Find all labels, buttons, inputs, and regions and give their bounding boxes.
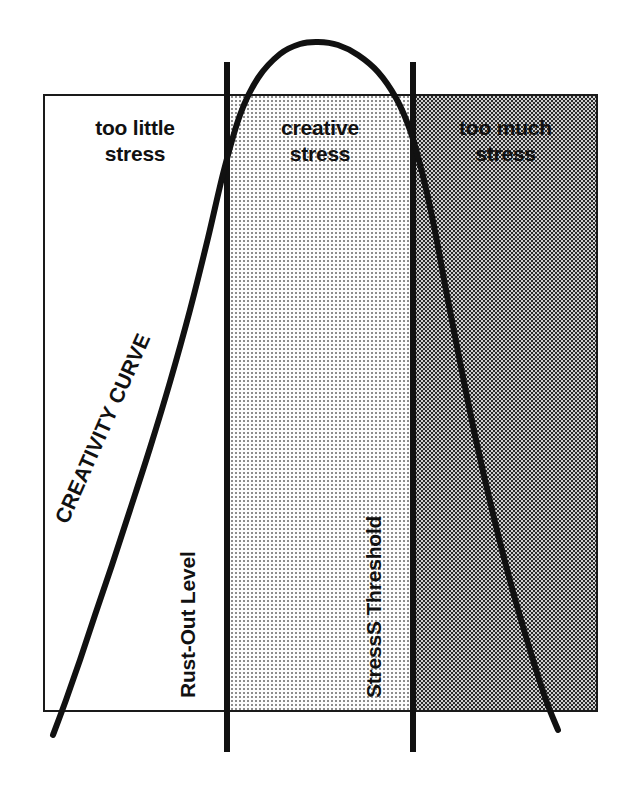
zone-fill-too-much-stress xyxy=(413,96,596,710)
chart-frame xyxy=(43,94,598,712)
zone-fill-creative-stress xyxy=(227,96,413,710)
boundary-line-stress-threshold xyxy=(410,62,416,752)
boundary-line-rust-out-level xyxy=(224,62,230,752)
zone-fill-too-little-stress xyxy=(45,96,227,710)
diagram-canvas: too little stress creative stress too mu… xyxy=(0,0,631,789)
